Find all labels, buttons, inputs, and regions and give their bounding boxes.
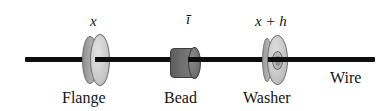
bead-cap (188, 47, 201, 79)
wire-through-bead (188, 57, 218, 62)
flange-position-label: x (90, 14, 97, 29)
wire-label: Wire (330, 70, 361, 86)
washer-position-label: x + h (255, 14, 287, 29)
washer-name-label: Washer (243, 90, 291, 106)
bead-position-label: ī (186, 12, 190, 27)
bead-name-label: Bead (164, 90, 197, 106)
wire-through-washer (268, 57, 294, 62)
flange-name-label: Flange (62, 90, 106, 106)
wire-through-flange (95, 57, 119, 62)
wire-diagram: x Flange ī Bead x + h Washer Wire (0, 0, 386, 111)
